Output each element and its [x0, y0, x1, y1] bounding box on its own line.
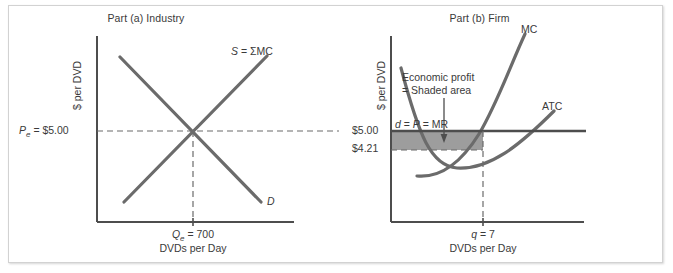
economic-profit-annotation: Economic profit = Shaded area — [402, 71, 474, 97]
atc-curve-label: ATC — [542, 100, 562, 112]
economic-profit-annotation-line2: = Shaded area — [402, 84, 474, 97]
panel-firm: Part (b) Firm $ per DVD MC — [339, 6, 664, 262]
supply-curve — [124, 56, 267, 202]
firm-atc-value-label: $4.21 — [352, 142, 378, 154]
panel-b-plot — [339, 6, 664, 264]
figure-frame: Part (a) Industry $ per DVD S = ΣMC D Pe… — [8, 5, 663, 263]
firm-price-label: $5.00 — [352, 124, 378, 136]
supply-curve-label: S = ΣMC — [231, 45, 273, 57]
equilibrium-quantity-label: Qe = 700 — [143, 228, 243, 243]
panel-industry: Part (a) Industry $ per DVD S = ΣMC D Pe… — [9, 6, 339, 262]
equilibrium-price-label: Pe = $5.00 — [19, 124, 69, 139]
mc-curve-label: MC — [521, 23, 537, 35]
firm-quantity-label: q = 7 — [443, 228, 523, 240]
demand-curve-label: D — [267, 195, 275, 207]
economic-profit-annotation-line1: Economic profit — [402, 71, 474, 84]
demand-price-mr-label: d = P = MR — [395, 118, 448, 130]
panel-a-x-axis-label: DVDs per Day — [143, 242, 243, 254]
panel-b-x-axis-label: DVDs per Day — [443, 242, 523, 254]
demand-curve — [120, 57, 261, 202]
